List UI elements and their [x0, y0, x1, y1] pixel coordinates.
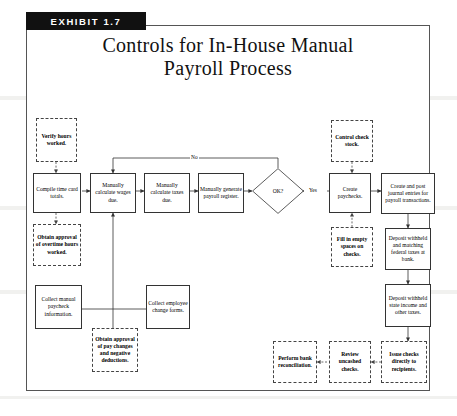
node-label: Review uncashed checks.: [331, 351, 369, 373]
node-perform-bank-reconciliation[interactable]: Perform bank reconciliation.: [273, 341, 317, 383]
node-label: Compile time card totals.: [35, 186, 79, 200]
node-label: Create and post journal entries for payr…: [383, 183, 433, 205]
node-compile-time-card[interactable]: Compile time card totals.: [33, 173, 81, 213]
node-control-check-stock[interactable]: Control check stock.: [331, 120, 373, 162]
node-label: Issue checks directly to recipients.: [383, 351, 425, 373]
node-deposit-federal-taxes[interactable]: Deposit withheld and matching federal ta…: [385, 228, 431, 270]
node-calculate-taxes[interactable]: Manually calculate taxes due.: [144, 173, 190, 213]
node-issue-checks[interactable]: Issue checks directly to recipients.: [381, 341, 427, 383]
node-label: Deposit withheld and matching federal ta…: [387, 235, 429, 264]
node-label: Fill in empty spaces on checks.: [333, 236, 371, 258]
node-fill-empty-spaces[interactable]: Fill in empty spaces on checks.: [331, 227, 373, 267]
node-label: Verify hours worked.: [38, 133, 75, 147]
node-label: Collect manual paycheck information.: [37, 296, 80, 318]
node-collect-employee-change-forms[interactable]: Collect employee change forms.: [146, 285, 190, 329]
node-verify-hours[interactable]: Verify hours worked.: [36, 118, 77, 162]
exhibit-tag: EXHIBIT 1.7: [26, 12, 146, 30]
edge-label-no: No: [190, 154, 199, 160]
node-label: Perform bank reconciliation.: [275, 355, 315, 369]
node-deposit-state-taxes[interactable]: Deposit withheld state income and other …: [385, 284, 431, 327]
node-label: Collect employee change forms.: [148, 300, 188, 314]
node-calculate-wages[interactable]: Manually calculate wages due.: [90, 173, 136, 213]
node-ok-decision[interactable]: OK?: [252, 168, 304, 214]
node-collect-manual-paycheck-info[interactable]: Collect manual paycheck information.: [35, 285, 82, 329]
node-label: Manually calculate taxes due.: [146, 182, 188, 204]
node-label: Manually generate payroll register.: [200, 186, 242, 200]
node-label: Create paychecks.: [331, 186, 369, 200]
node-create-paychecks[interactable]: Create paychecks.: [329, 173, 371, 213]
edge-label-yes: Yes: [308, 187, 318, 193]
node-label: OK?: [252, 168, 304, 214]
flowchart-canvas: Verify hours worked. Compile time card t…: [0, 0, 457, 416]
node-obtain-pay-change-approval[interactable]: Obtain approval of pay changes and negat…: [92, 328, 138, 372]
node-label: Control check stock.: [333, 134, 371, 148]
node-journal-entries[interactable]: Create and post journal entries for payr…: [381, 173, 435, 214]
node-review-uncashed-checks[interactable]: Review uncashed checks.: [329, 341, 371, 383]
node-label: Deposit withheld state income and other …: [387, 295, 429, 317]
node-obtain-overtime-approval[interactable]: Obtain approval of overtime hours worked…: [33, 224, 81, 266]
node-label: Obtain approval of pay changes and negat…: [94, 336, 136, 365]
node-label: Obtain approval of overtime hours worked…: [35, 234, 79, 256]
node-generate-payroll-register[interactable]: Manually generate payroll register.: [198, 173, 244, 213]
node-label: Manually calculate wages due.: [92, 182, 134, 204]
